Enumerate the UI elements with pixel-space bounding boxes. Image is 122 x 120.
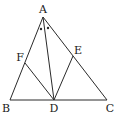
triangle-diagram: A B C D E F [0, 0, 122, 120]
angle-mark-dot-icon [40, 28, 42, 30]
label-b: B [2, 102, 10, 115]
label-a: A [38, 3, 48, 16]
segment-ab [10, 17, 43, 100]
label-f: F [16, 51, 24, 64]
point-labels: A B C D E F [2, 3, 114, 115]
angle-mark-dot-icon [47, 27, 49, 29]
segments [10, 17, 107, 100]
label-e: E [74, 44, 82, 57]
label-c: C [106, 102, 114, 115]
label-d: D [50, 102, 59, 115]
segment-de [54, 56, 73, 100]
